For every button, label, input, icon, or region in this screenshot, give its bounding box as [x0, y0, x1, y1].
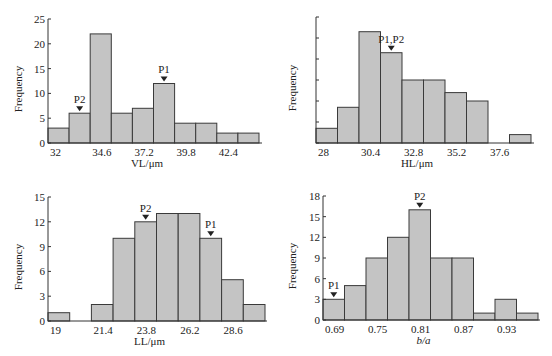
x-tick-label: 42.4 — [219, 146, 239, 158]
x-tick-label: 0.69 — [325, 323, 345, 335]
y-tick-label: 5 — [40, 112, 46, 124]
x-tick-label: 28.6 — [224, 324, 244, 336]
histogram-bar — [222, 280, 244, 321]
histogram-bar — [517, 313, 539, 320]
annotation-label: P2 — [140, 202, 152, 214]
hl-histogram-panel: 2830.432.835.237.6HL/μmFrequencyP1,P2 — [286, 17, 534, 169]
annotation-label: P2 — [74, 93, 86, 105]
histogram-bar — [111, 113, 132, 143]
x-tick-label: 35.2 — [447, 146, 466, 158]
y-tick-label: 6 — [315, 273, 321, 285]
histogram-bar — [196, 123, 217, 143]
annotation-label: P1 — [205, 218, 217, 230]
histogram-bar — [345, 286, 367, 320]
histogram-bar — [388, 237, 410, 320]
histogram-bar — [467, 101, 489, 143]
histogram-bar — [424, 80, 446, 143]
x-axis-label: VL/μm — [131, 157, 164, 169]
x-tick-label: 0.87 — [454, 323, 474, 335]
marker-triangle-icon — [207, 231, 214, 236]
x-tick-label: 28 — [318, 146, 330, 158]
histogram-bar — [316, 128, 338, 143]
y-axis-label: Frequency — [286, 64, 298, 111]
histogram-bar — [402, 80, 424, 143]
y-tick-label: 9 — [315, 252, 321, 264]
y-tick-label: 3 — [40, 290, 46, 302]
histogram-bar — [359, 32, 381, 143]
histogram-bar — [323, 299, 345, 320]
y-tick-label: 9 — [40, 241, 46, 253]
y-tick-label: 3 — [315, 293, 321, 305]
histogram-bar — [510, 135, 532, 143]
histogram-bar — [243, 305, 265, 322]
y-tick-label: 0 — [40, 315, 46, 327]
y-axis-label: Frequency — [12, 243, 24, 290]
y-axis-label: Frequency — [286, 242, 298, 289]
y-axis-label: Frequency — [12, 65, 24, 112]
marker-triangle-icon — [416, 203, 423, 208]
histogram-bar — [452, 258, 474, 320]
x-tick-label: 37.6 — [490, 146, 510, 158]
histogram-bar — [175, 123, 196, 143]
histogram-bar — [409, 210, 431, 320]
y-tick-label: 10 — [34, 87, 46, 99]
y-tick-label: 6 — [40, 265, 46, 277]
histogram-bar — [238, 133, 259, 143]
x-tick-label: 34.6 — [92, 146, 112, 158]
x-axis-label: b/a — [416, 334, 431, 346]
marker-triangle-icon — [161, 76, 168, 81]
histogram-bar — [431, 258, 453, 320]
marker-triangle-icon — [76, 106, 83, 111]
ba-histogram-panel: 03691215180.690.750.810.870.93b/aFrequen… — [286, 190, 540, 346]
histogram-bar — [48, 313, 70, 321]
x-tick-label: 32 — [50, 146, 61, 158]
x-tick-label: 0.93 — [497, 323, 517, 335]
marker-triangle-icon — [388, 46, 395, 51]
y-tick-label: 12 — [309, 231, 320, 243]
marker-triangle-icon — [142, 215, 149, 220]
y-tick-label: 0 — [40, 137, 46, 149]
histogram-bar — [132, 108, 153, 143]
y-tick-label: 0 — [315, 314, 321, 326]
y-tick-label: 15 — [34, 191, 46, 203]
vl-histogram-panel: 05101520253234.637.239.842.4VL/μmFrequen… — [12, 13, 262, 169]
x-tick-label: 21.4 — [93, 324, 113, 336]
histogram-bar — [366, 258, 388, 320]
y-tick-label: 25 — [34, 13, 46, 25]
marker-triangle-icon — [330, 292, 337, 297]
histogram-bar — [217, 133, 238, 143]
histogram-bar — [91, 305, 113, 322]
histogram-bar — [48, 128, 69, 143]
histogram-bar — [381, 53, 403, 143]
y-tick-label: 12 — [34, 216, 45, 228]
histogram-bar — [495, 299, 517, 320]
y-tick-label: 15 — [34, 63, 46, 75]
annotation-label: P1 — [328, 279, 340, 291]
histogram-bar — [113, 238, 135, 321]
y-tick-label: 15 — [309, 211, 321, 223]
x-tick-label: 39.8 — [177, 146, 197, 158]
histogram-bar — [157, 214, 179, 322]
histogram-bar — [474, 313, 496, 320]
annotation-label: P2 — [414, 190, 426, 202]
histogram-bar — [135, 222, 157, 321]
y-tick-label: 18 — [309, 190, 321, 202]
histogram-figure: 05101520253234.637.239.842.4VL/μmFrequen… — [0, 0, 552, 356]
x-tick-label: 30.4 — [361, 146, 381, 158]
histogram-bar — [338, 107, 360, 143]
histogram-bar — [445, 93, 467, 143]
x-tick-label: 0.75 — [368, 323, 388, 335]
x-tick-label: 26.2 — [180, 324, 199, 336]
histogram-bar — [200, 238, 222, 321]
x-axis-label: LL/μm — [134, 335, 165, 347]
y-tick-label: 20 — [34, 38, 46, 50]
annotation-label: P1 — [158, 63, 170, 75]
annotation-label: P1,P2 — [378, 33, 404, 45]
x-axis-label: HL/μm — [401, 157, 434, 169]
histogram-bar — [154, 84, 175, 144]
histogram-bar — [69, 113, 90, 143]
ll-histogram-panel: 036912151921.423.826.228.6LL/μmFrequency… — [12, 191, 267, 347]
histogram-bar — [90, 34, 111, 143]
x-tick-label: 19 — [50, 324, 62, 336]
histogram-bar — [178, 214, 200, 322]
